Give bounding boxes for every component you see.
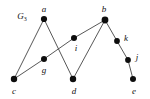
- vertices-group: [11, 16, 136, 82]
- vertex-label: k: [124, 34, 128, 43]
- vertex-label: j: [136, 53, 139, 62]
- vertex-label: a: [42, 5, 47, 14]
- graph-figure: G3 abcdegikj: [0, 0, 150, 99]
- graph-vertex: [114, 38, 120, 44]
- vertex-label: i: [75, 44, 78, 53]
- graph-vertex: [41, 16, 47, 22]
- edges-group: [14, 19, 133, 79]
- graph-edge: [105, 20, 117, 41]
- graph-name-label: G3: [17, 12, 27, 23]
- vertex-label: g: [42, 66, 47, 75]
- vertex-label: b: [102, 5, 107, 14]
- graph-vertex: [70, 76, 76, 82]
- graph-edge: [14, 19, 44, 79]
- graph-vertex: [11, 76, 17, 82]
- vertex-label: d: [72, 87, 77, 96]
- graph-name-subscript: 3: [24, 16, 27, 22]
- vertex-label: e: [132, 87, 136, 96]
- graph-vertex: [71, 35, 77, 41]
- graph-edge: [117, 41, 128, 60]
- graph-edge: [44, 38, 74, 59]
- graph-vertex: [125, 57, 131, 63]
- graph-vertex: [130, 76, 136, 82]
- graph-vertex: [102, 17, 109, 24]
- vertex-label: c: [12, 87, 16, 96]
- graph-vertex: [41, 56, 47, 62]
